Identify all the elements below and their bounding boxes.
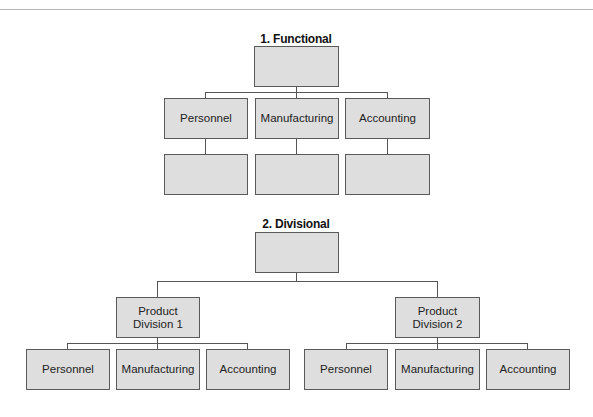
functional-sub-box bbox=[345, 154, 430, 195]
div1-dept-accounting: Accounting bbox=[206, 349, 290, 390]
functional-dept-accounting: Accounting bbox=[345, 98, 430, 139]
functional-dept-personnel: Personnel bbox=[164, 98, 248, 139]
div2-dept-accounting: Accounting bbox=[486, 349, 570, 390]
div2-dept-personnel: Personnel bbox=[304, 349, 388, 390]
functional-sub-box bbox=[164, 154, 248, 195]
divisional-title: 2. Divisional bbox=[196, 217, 396, 231]
functional-dept-manufacturing: Manufacturing bbox=[255, 98, 339, 139]
div1-dept-personnel: Personnel bbox=[26, 349, 110, 390]
div2-dept-manufacturing: Manufacturing bbox=[395, 349, 480, 390]
connector-line bbox=[296, 273, 297, 281]
div1-dept-manufacturing: Manufacturing bbox=[116, 349, 200, 390]
functional-top-box bbox=[254, 46, 339, 87]
connector-line bbox=[157, 281, 158, 297]
connector-line bbox=[387, 139, 388, 154]
connector-line bbox=[157, 281, 438, 282]
connector-line bbox=[296, 139, 297, 154]
product-division-2: Product Division 2 bbox=[395, 297, 480, 338]
divisional-top-box bbox=[255, 232, 339, 273]
connector-line bbox=[205, 139, 206, 154]
functional-title: 1. Functional bbox=[196, 32, 396, 46]
header-rule bbox=[0, 9, 593, 10]
product-division-1: Product Division 1 bbox=[116, 297, 200, 338]
connector-line bbox=[437, 281, 438, 297]
functional-sub-box bbox=[255, 154, 339, 195]
